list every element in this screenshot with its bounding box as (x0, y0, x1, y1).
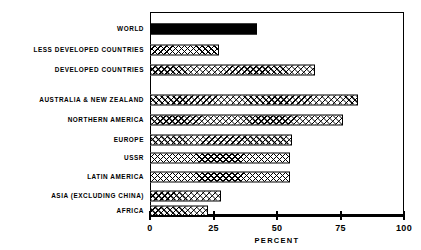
category-label: DEVELOPED COUNTRIES (55, 66, 144, 74)
x-tick-mark (340, 211, 342, 220)
category-label: USSR (124, 154, 144, 162)
bar (150, 191, 221, 202)
bar (150, 135, 292, 146)
bars-layer (150, 12, 404, 215)
x-axis-title: PERCENT (255, 236, 300, 245)
x-tick-mark (149, 211, 151, 220)
bar-chart: WORLDLESS DEVELOPED COUNTRIESDEVELOPED C… (0, 0, 421, 250)
x-axis: 0255075100 PERCENT (150, 215, 404, 250)
bar (150, 65, 315, 76)
category-label: AUSTRALIA & NEW ZEALAND (39, 96, 144, 104)
x-tick-mark (276, 211, 278, 220)
x-tick-mark (403, 211, 405, 220)
category-label: NORTHERN AMERICA (68, 116, 144, 124)
bar (150, 95, 358, 106)
category-label: LESS DEVELOPED COUNTRIES (34, 46, 145, 54)
bar (150, 172, 290, 183)
x-tick-label: 75 (335, 223, 346, 233)
category-label: WORLD (117, 25, 144, 33)
category-axis-labels: WORLDLESS DEVELOPED COUNTRIESDEVELOPED C… (0, 0, 148, 250)
x-tick-label: 50 (272, 223, 283, 233)
x-tick-label: 0 (147, 223, 152, 233)
category-label: ASIA (EXCLUDING CHINA) (51, 192, 144, 200)
category-label: AFRICA (117, 207, 144, 215)
category-label: EUROPE (114, 136, 144, 144)
bar (150, 45, 219, 56)
x-tick-label: 100 (396, 223, 412, 233)
category-label: LATIN AMERICA (87, 173, 144, 181)
bar (150, 115, 343, 126)
x-tick-label: 25 (208, 223, 219, 233)
x-tick-mark (213, 211, 215, 220)
bar (150, 24, 257, 35)
bar (150, 153, 290, 164)
